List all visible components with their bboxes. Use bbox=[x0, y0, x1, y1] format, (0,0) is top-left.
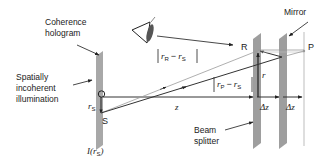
mirror-plate bbox=[279, 33, 287, 149]
point-p-marker bbox=[303, 50, 305, 52]
hologram-plate bbox=[96, 51, 103, 150]
beam-splitter-label-line1: Beam bbox=[194, 125, 216, 135]
r-label: r bbox=[262, 70, 266, 80]
svg-text:rP−rS: rP−rS bbox=[217, 79, 241, 90]
point-p-label: P bbox=[308, 42, 314, 52]
illumination-callout-arrow bbox=[73, 80, 92, 85]
coherence-holography-diagram: Coherence hologram Spatially incoherent … bbox=[0, 0, 330, 162]
mirror-label: Mirror bbox=[284, 7, 306, 17]
hologram-callout-arrow bbox=[77, 45, 99, 55]
mirror-callout-arrow bbox=[289, 22, 308, 36]
ray-s-to-p-arrowhead bbox=[180, 87, 186, 89]
delta-z-label-1: Δz bbox=[259, 102, 269, 112]
z-label: z bbox=[174, 102, 179, 112]
coherence-hologram-label-line1: Coherence bbox=[45, 17, 87, 27]
point-s-label: S bbox=[102, 116, 108, 126]
svg-text:rR−rS: rR−rS bbox=[161, 51, 186, 62]
beam-splitter-callout-arrow bbox=[225, 122, 253, 130]
ray-s-to-r-arrowhead bbox=[160, 87, 166, 89]
beam-splitter-label-line2: splitter bbox=[194, 136, 219, 146]
r-s-label: rS bbox=[88, 101, 96, 112]
eye-pointer-line bbox=[157, 36, 233, 45]
illumination-label-line3: illumination bbox=[16, 94, 59, 104]
illumination-label-line1: Spatially bbox=[16, 72, 49, 82]
distance-r-s-label: rR−rS bbox=[158, 49, 197, 63]
point-r-label: R bbox=[241, 42, 248, 52]
beam-splitter-plate bbox=[253, 33, 261, 149]
coherence-hologram-label-line2: hologram bbox=[45, 28, 80, 38]
delta-z-label-2: Δz bbox=[285, 102, 295, 112]
distance-p-s-label: rP−rS bbox=[214, 77, 252, 92]
illumination-label-line2: incoherent bbox=[16, 83, 56, 93]
intensity-label: I(rS) bbox=[86, 146, 104, 157]
eye-icon bbox=[132, 17, 155, 43]
